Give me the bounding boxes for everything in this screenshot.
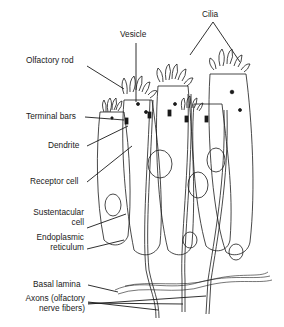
label-cilia: Cilia [202,10,218,20]
epithelium-illustration [0,0,284,327]
label-olfactory-rod: Olfactory rod [26,56,74,66]
label-receptor-cell: Receptor cell [30,177,78,187]
leader-lines [85,22,240,310]
label-terminal-bars: Terminal bars [26,112,76,122]
label-axons: Axons (olfactory nerve fibers) [10,294,85,313]
cilia-tufts [103,49,251,112]
terminal-bars [125,110,208,124]
label-axons-line2: nerve fibers) [10,304,85,314]
label-endoplasmic-reticulum: Endoplasmic reticulum [22,233,84,252]
label-dendrite: Dendrite [48,141,79,151]
label-endoplasmic-reticulum-line2: reticulum [22,243,84,253]
basal-lamina [115,272,272,294]
label-sustentacular-cell-line2: cell [22,218,84,228]
label-sustentacular-cell: Sustentacular cell [22,208,84,227]
label-vesicle: Vesicle [120,30,146,40]
axons [145,94,228,318]
olfactory-epithelium-diagram: Vesicle Cilia Olfactory rod Terminal bar… [0,0,284,327]
label-basal-lamina: Basal lamina [33,280,81,290]
